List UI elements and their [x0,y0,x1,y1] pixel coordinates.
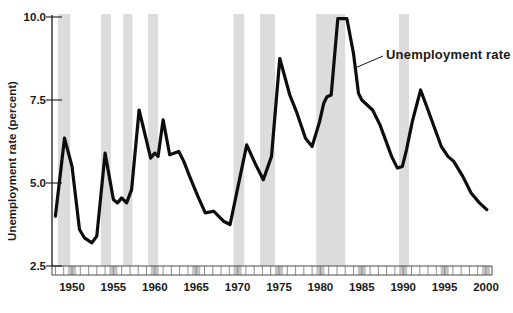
annotation-leader-line [355,56,383,68]
x-tick-label: 1960 [138,282,172,294]
recession-band [316,14,345,266]
x-tick-label: 1970 [221,282,255,294]
x-tick-label: 1975 [262,282,296,294]
recession-band [123,14,132,266]
recession-band [101,14,111,266]
unemployment-rate-chart: Unemployment rate (percent) Unemployment… [0,0,513,313]
x-axis-strip [52,266,492,275]
x-tick-label: 1955 [96,282,130,294]
x-tick-label: 1990 [386,282,420,294]
recession-band [234,14,245,266]
series-annotation-label: Unemployment rate [386,48,511,61]
x-tick-label: 1950 [55,282,89,294]
x-tick-label: 1995 [428,282,462,294]
x-tick-label: 1985 [345,282,379,294]
y-tick-label: 10.0 [16,12,46,24]
x-tick-label: 1965 [179,282,213,294]
y-tick-label: 5.0 [16,178,46,190]
recession-band [148,14,158,266]
x-tick-label: 1980 [303,282,337,294]
x-tick-label: 2000 [469,282,503,294]
y-tick-label: 2.5 [16,261,46,273]
y-tick-label: 7.5 [16,95,46,107]
